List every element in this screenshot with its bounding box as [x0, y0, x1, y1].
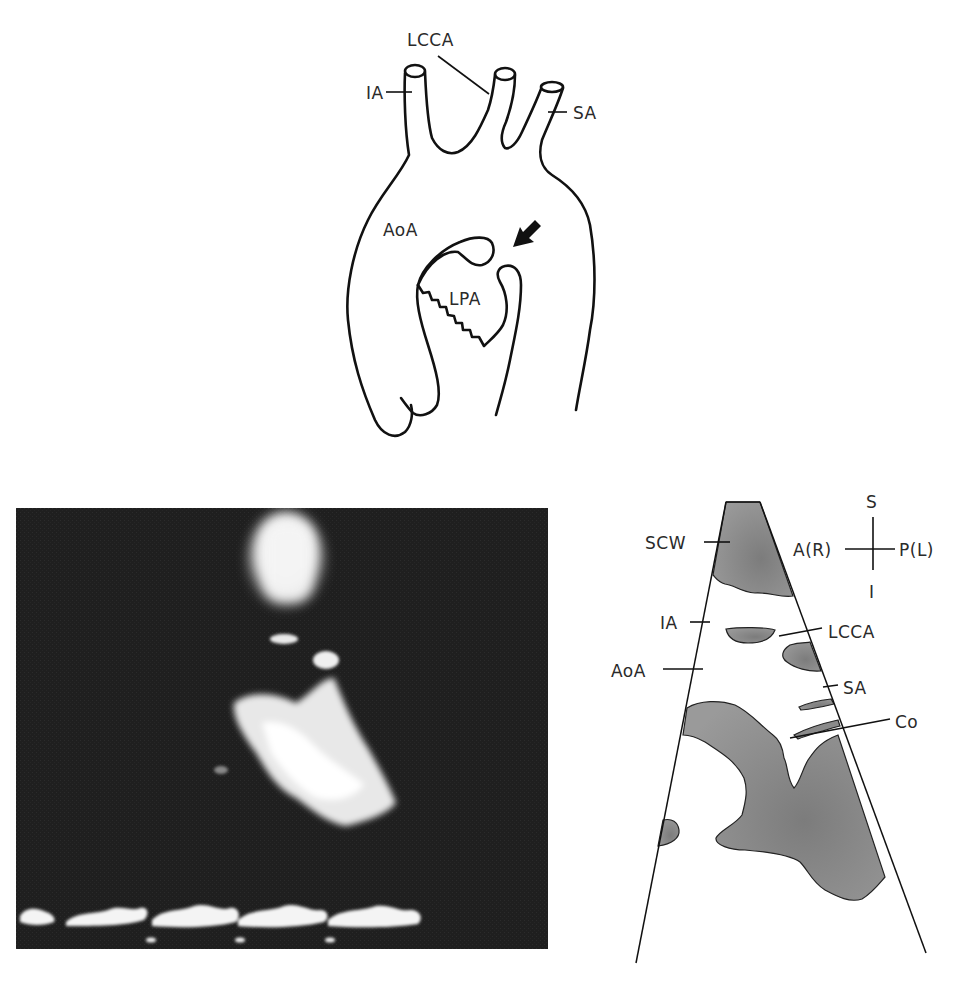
aortic-arch-drawing: IA LCCA SA AoA LPA	[300, 0, 660, 450]
label-ia: IA	[660, 613, 678, 633]
label-lpa: LPA	[449, 289, 481, 309]
label-sa: SA	[573, 103, 597, 123]
echo-rendering	[16, 508, 548, 949]
aortic-arch-diagram: IA LCCA SA AoA LPA	[300, 0, 660, 450]
echocardiogram-image	[16, 508, 548, 949]
label-ia: IA	[366, 83, 384, 103]
label-aoa: AoA	[611, 661, 646, 681]
label-lcca: LCCA	[828, 622, 875, 642]
orientation-posterior: P(L)	[899, 540, 934, 560]
orientation-superior: S	[866, 492, 877, 512]
label-aoa: AoA	[383, 220, 418, 240]
label-co: Co	[895, 712, 918, 732]
label-sa: SA	[843, 678, 867, 698]
schematic-drawing: SCW IA AoA LCCA SA Co S I A(R) P(L)	[600, 480, 967, 980]
shaded-structures	[658, 502, 885, 900]
label-scw: SCW	[645, 533, 686, 553]
arrow-icon	[513, 220, 541, 247]
echo-schematic: SCW IA AoA LCCA SA Co S I A(R) P(L)	[600, 480, 967, 980]
orientation-anterior: A(R)	[793, 540, 832, 560]
orientation-inferior: I	[869, 582, 875, 602]
label-lcca: LCCA	[407, 30, 454, 50]
